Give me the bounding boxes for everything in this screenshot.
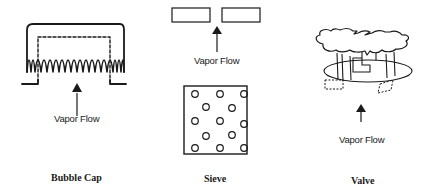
valve-arrow-icon: [356, 104, 366, 122]
valve-figure: [0, 0, 425, 196]
valve-vapor-flow-label: Vapor Flow: [339, 134, 384, 145]
valve-caption: Valve: [351, 175, 375, 186]
